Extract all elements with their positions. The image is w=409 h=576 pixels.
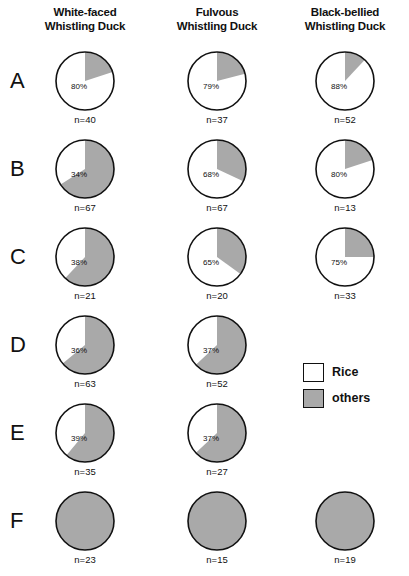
pie-graphic — [186, 50, 248, 112]
pie-chart: 38% — [54, 226, 116, 288]
pie-chart: 79% — [186, 50, 248, 112]
sample-size-label: n=23 — [20, 554, 150, 565]
pie-graphic — [54, 50, 116, 112]
sample-size-label: n=13 — [280, 202, 409, 213]
sample-size-label: n=67 — [152, 202, 282, 213]
column-header-black-bellied: Black-bellied Whistling Duck — [280, 6, 409, 33]
legend-swatch-rice-icon — [303, 363, 324, 382]
pie-slice-others — [188, 492, 246, 550]
pie-chart: 75% — [314, 226, 376, 288]
sample-size-label: n=52 — [152, 378, 282, 389]
column-header-line1: White-faced — [20, 6, 150, 20]
column-headers: White-faced Whistling Duck Fulvous Whist… — [0, 6, 409, 46]
pie-chart: 88% — [314, 50, 376, 112]
pie-chart: 65% — [186, 226, 248, 288]
sample-size-label: n=67 — [20, 202, 150, 213]
legend-label-others: others — [332, 392, 370, 405]
column-header-line2: Whistling Duck — [152, 20, 282, 34]
sample-size-label: n=21 — [20, 290, 150, 301]
pie-cell-f-1: n=15 — [152, 488, 282, 576]
sample-size-label: n=33 — [280, 290, 409, 301]
legend: Rice others — [303, 363, 403, 415]
pie-graphic — [186, 138, 248, 200]
pie-cell-a-2: 88%n=52 — [280, 48, 409, 136]
pie-graphic — [54, 402, 116, 464]
pie-cell-f-0: n=23 — [20, 488, 150, 576]
pie-graphic — [314, 490, 376, 552]
column-header-line2: Whistling Duck — [280, 20, 409, 34]
column-header-white-faced: White-faced Whistling Duck — [20, 6, 150, 33]
pie-cell-c-2: 75%n=33 — [280, 224, 409, 312]
pie-graphic — [54, 314, 116, 376]
pie-chart — [186, 490, 248, 552]
pie-graphic — [186, 402, 248, 464]
pie-chart-grid: A80%n=4079%n=3788%n=52B34%n=6768%n=6780%… — [0, 48, 409, 576]
pie-chart: 39% — [54, 402, 116, 464]
pie-chart: 68% — [186, 138, 248, 200]
column-header-line1: Black-bellied — [280, 6, 409, 20]
pie-cell-b-1: 68%n=67 — [152, 136, 282, 224]
pie-cell-a-0: 80%n=40 — [20, 48, 150, 136]
pie-chart: 34% — [54, 138, 116, 200]
pie-cell-b-0: 34%n=67 — [20, 136, 150, 224]
chart-row-b: B34%n=6768%n=6780%n=13 — [0, 136, 409, 224]
sample-size-label: n=40 — [20, 114, 150, 125]
sample-size-label: n=20 — [152, 290, 282, 301]
pie-graphic — [186, 314, 248, 376]
pie-chart: 80% — [314, 138, 376, 200]
chart-row-a: A80%n=4079%n=3788%n=52 — [0, 48, 409, 136]
pie-cell-c-1: 65%n=20 — [152, 224, 282, 312]
pie-graphic — [314, 50, 376, 112]
sample-size-label: n=27 — [152, 466, 282, 477]
pie-graphic — [186, 490, 248, 552]
pie-graphic — [314, 226, 376, 288]
pie-chart: 37% — [186, 314, 248, 376]
pie-cell-a-1: 79%n=37 — [152, 48, 282, 136]
pie-graphic — [54, 226, 116, 288]
pie-cell-c-0: 38%n=21 — [20, 224, 150, 312]
pie-chart: 36% — [54, 314, 116, 376]
pie-slice-others — [316, 492, 374, 550]
pie-graphic — [54, 490, 116, 552]
column-header-line1: Fulvous — [152, 6, 282, 20]
pie-cell-d-1: 37%n=52 — [152, 312, 282, 400]
column-header-line2: Whistling Duck — [20, 20, 150, 34]
pie-chart: 37% — [186, 402, 248, 464]
pie-cell-d-0: 36%n=63 — [20, 312, 150, 400]
pie-cell-f-2: n=19 — [280, 488, 409, 576]
sample-size-label: n=63 — [20, 378, 150, 389]
legend-label-rice: Rice — [332, 366, 358, 379]
pie-slice-others — [56, 492, 114, 550]
pie-graphic — [54, 138, 116, 200]
legend-swatch-others-icon — [303, 389, 324, 408]
pie-cell-b-2: 80%n=13 — [280, 136, 409, 224]
sample-size-label: n=52 — [280, 114, 409, 125]
sample-size-label: n=37 — [152, 114, 282, 125]
pie-graphic — [186, 226, 248, 288]
pie-cell-e-0: 39%n=35 — [20, 400, 150, 488]
sample-size-label: n=35 — [20, 466, 150, 477]
pie-cell-e-1: 37%n=27 — [152, 400, 282, 488]
legend-item-rice: Rice — [303, 363, 403, 382]
chart-row-f: Fn=23n=15n=19 — [0, 488, 409, 576]
pie-graphic — [314, 138, 376, 200]
legend-item-others: others — [303, 389, 403, 408]
column-header-fulvous: Fulvous Whistling Duck — [152, 6, 282, 33]
pie-chart: 80% — [54, 50, 116, 112]
chart-row-c: C38%n=2165%n=2075%n=33 — [0, 224, 409, 312]
sample-size-label: n=19 — [280, 554, 409, 565]
pie-chart — [314, 490, 376, 552]
sample-size-label: n=15 — [152, 554, 282, 565]
pie-chart — [54, 490, 116, 552]
